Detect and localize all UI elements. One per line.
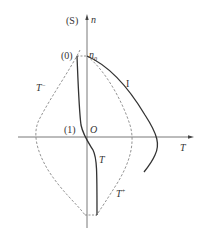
label-t-plus: T+ (116, 188, 126, 199)
curve-i (87, 56, 158, 172)
label-n-axis: n (91, 15, 96, 25)
label-t-axis: T (180, 143, 186, 153)
t-axis-arrow-icon (188, 135, 194, 138)
label-t-minus: T− (36, 82, 46, 93)
label-origin: O (90, 125, 97, 135)
diagram-canvas (0, 0, 201, 237)
label-curve-t: T (99, 155, 105, 165)
n-axis-arrow-icon (85, 14, 88, 20)
label-point-1: (1) (64, 125, 76, 135)
label-curve-i: I (126, 79, 129, 89)
label-point-0: (0) (61, 51, 73, 61)
label-n0: n0 (89, 50, 97, 62)
label-s: (S) (66, 16, 78, 26)
